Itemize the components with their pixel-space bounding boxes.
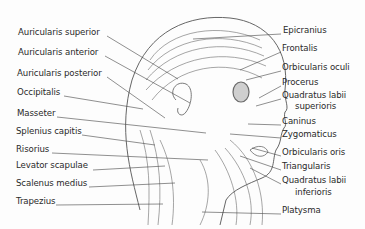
label-quadratus-labii-superioris-2: superioris [295,102,336,111]
label-platysma: Platysma [282,206,321,215]
label-auricularis-posterior: Auricularis posterior [17,69,102,78]
label-occipitalis: Occipitalis [17,88,60,97]
anatomy-diagram: Auricularis superior Auricularis anterio… [0,0,365,229]
label-quadratus-labii-superioris-1: Quadratus labii [282,91,346,100]
label-splenius-capitis: Splenius capitis [16,127,82,136]
label-auricularis-superior: Auricularis superior [18,28,100,37]
label-risorius: Risorius [16,145,49,154]
label-epicranius: Epicranius [283,26,327,35]
label-triangularis: Triangularis [282,162,330,171]
label-levator-scapulae: Levator scapulae [16,161,88,170]
label-auricularis-anterior: Auricularis anterior [18,48,98,57]
label-scalenus-medius: Scalenus medius [16,179,87,188]
label-procerus: Procerus [282,78,318,87]
label-orbicularis-oris: Orbicularis oris [282,148,345,157]
label-trapezius: Trapezius [16,197,55,206]
label-orbicularis-oculi: Orbicularis oculi [282,63,350,72]
label-zygomaticus: Zygomaticus [282,130,337,139]
label-quadratus-labii-inferioris-2: inferioris [295,188,332,197]
label-masseter: Masseter [17,109,55,118]
label-frontalis: Frontalis [282,44,317,53]
label-quadratus-labii-inferioris-1: Quadratus labii [282,176,346,185]
label-caninus: Caninus [282,117,316,126]
